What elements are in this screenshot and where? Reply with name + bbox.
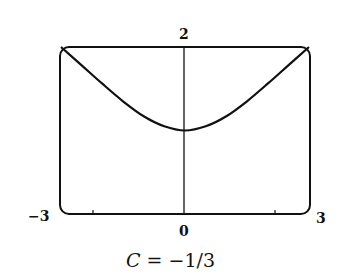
x-max-label: 3 (316, 211, 326, 225)
y-max-label: 2 (179, 27, 189, 41)
plot-area (0, 0, 339, 278)
caption: C = −1/3 (126, 251, 215, 270)
caption-variable: C (126, 249, 141, 271)
x-min-label: −3 (28, 209, 49, 223)
caption-value: = −1/3 (141, 249, 216, 271)
solution-curve (61, 47, 309, 131)
x-center-label: 0 (179, 224, 189, 238)
